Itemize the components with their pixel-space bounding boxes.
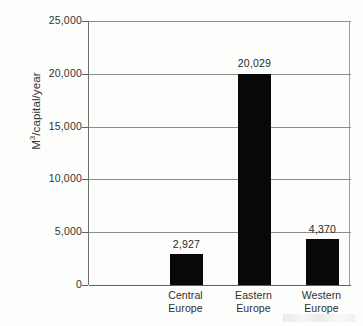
gridline: [89, 74, 351, 75]
gridline: [89, 179, 351, 180]
x-axis-category-label-line: Europe: [282, 302, 362, 315]
y-axis-title: M3/capital/year: [30, 31, 42, 191]
y-axis-tick-label: 0: [76, 278, 82, 290]
y-axis-title-superscript: 3: [28, 136, 37, 140]
gridline: [89, 127, 351, 128]
y-axis-tick-label: 25,000: [49, 14, 82, 26]
axis-baseline: [89, 285, 351, 286]
x-axis-category-label-line: Western: [282, 289, 362, 302]
x-axis-category-label: WesternEurope: [282, 289, 362, 314]
y-axis-tick-label: 15,000: [49, 120, 82, 132]
y-axis-tick-label: 5,000: [55, 225, 82, 237]
y-axis-tick-label: 20,000: [49, 67, 82, 79]
bar-chart: M3/capital/year 05,00010,00015,00020,000…: [0, 0, 363, 326]
bar: [170, 254, 203, 285]
bar-value-label: 2,927: [147, 238, 227, 250]
scan-artifact: [283, 314, 355, 322]
bar: [238, 74, 271, 286]
bar-value-label: 20,029: [215, 57, 295, 69]
y-axis-title-prefix: M: [30, 140, 42, 150]
y-axis-tick: [82, 285, 88, 286]
bar: [306, 239, 339, 285]
plot-area: 2,92720,0294,370: [88, 21, 350, 285]
y-axis-title-suffix: /capital/year: [30, 72, 42, 135]
bar-value-label: 4,370: [283, 223, 363, 235]
gridline: [89, 21, 351, 22]
y-axis-tick-label: 10,000: [49, 172, 82, 184]
